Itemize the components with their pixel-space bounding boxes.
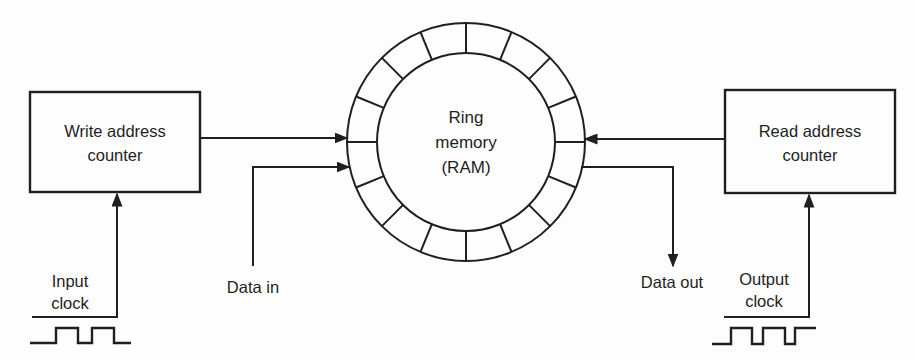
data-out-label: Data out bbox=[641, 273, 704, 291]
ring-segment-divider bbox=[529, 205, 550, 226]
input-clock-waveform-icon bbox=[30, 328, 131, 343]
output-clock-label-line1: Output bbox=[739, 270, 789, 288]
ring-segment-divider bbox=[548, 97, 576, 108]
ring-segment-divider bbox=[500, 224, 511, 252]
input-clock-label-line1: Input bbox=[52, 272, 89, 290]
ring-memory-diagram: Write address counter Read address count… bbox=[0, 0, 915, 360]
ring-memory-label-line1: Ring bbox=[449, 108, 484, 127]
data-in-label: Data in bbox=[227, 278, 279, 296]
ring-segment-divider bbox=[529, 58, 550, 79]
ring-segment-divider bbox=[421, 32, 432, 60]
write-address-counter-label-line2: counter bbox=[87, 146, 143, 164]
ring-segment-divider bbox=[356, 97, 384, 108]
ring-segment-divider bbox=[356, 176, 384, 187]
write-address-counter-box bbox=[30, 92, 200, 192]
ring-segment-divider bbox=[548, 176, 576, 187]
read-address-counter-box bbox=[725, 90, 895, 193]
data-in-arrow bbox=[253, 167, 349, 266]
read-address-counter-label-line1: Read address bbox=[759, 122, 862, 140]
data-out-arrow bbox=[581, 167, 673, 266]
ring-segment-divider bbox=[500, 32, 511, 60]
ring-segment-divider bbox=[382, 58, 403, 79]
input-clock-label-line2: clock bbox=[51, 294, 89, 312]
ring-memory-label-line3: (RAM) bbox=[441, 158, 490, 177]
ring-segment-divider bbox=[421, 224, 432, 252]
output-clock-waveform-icon bbox=[712, 328, 816, 344]
ring-memory-label-line2: memory bbox=[435, 133, 497, 152]
diagram-canvas: Write address counter Read address count… bbox=[0, 0, 915, 360]
read-address-counter-label-line2: counter bbox=[782, 146, 838, 164]
output-clock-label-line2: clock bbox=[745, 292, 783, 310]
write-address-counter-label-line1: Write address bbox=[64, 122, 165, 140]
ring-segment-divider bbox=[382, 205, 403, 226]
